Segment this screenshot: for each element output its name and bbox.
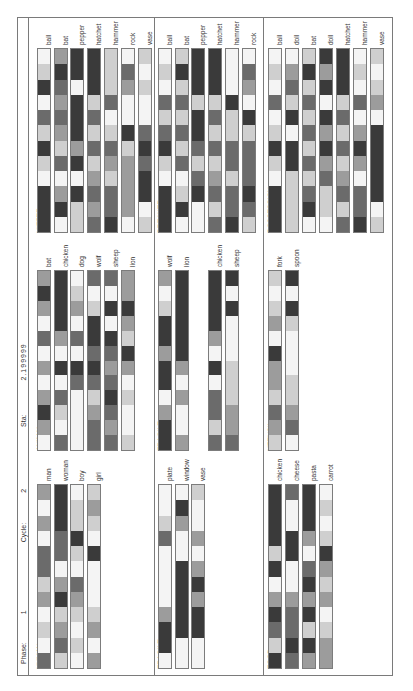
unit-strip-pepper: [191, 48, 205, 233]
activation-cell: [159, 561, 171, 576]
activation-cell: [269, 156, 281, 171]
activation-cell: [354, 141, 366, 156]
activation-cell: [337, 156, 349, 171]
activation-cell: [71, 110, 83, 125]
unit-strip-vase: [138, 48, 152, 233]
activation-cell: [286, 405, 298, 420]
activation-cell: [337, 125, 349, 140]
activation-cell: [226, 435, 238, 450]
activation-cell: [371, 110, 383, 125]
activation-cell: [371, 64, 383, 79]
unit-strip-bat: [54, 48, 68, 233]
activation-cell: [286, 375, 298, 390]
unit-strip-hatchet: [208, 48, 222, 233]
unit-strip-bat: [37, 270, 51, 451]
activation-cell: [105, 331, 117, 346]
activation-cell: [192, 49, 204, 64]
activation-cell: [209, 420, 221, 435]
activation-cell: [88, 202, 100, 217]
activation-cell: [38, 622, 50, 637]
activation-cell: [320, 95, 332, 110]
activation-cell: [38, 592, 50, 607]
phase-label: Phase:: [18, 642, 29, 664]
activation-cell: [105, 171, 117, 186]
activation-cell: [371, 217, 383, 232]
activation-cell: [269, 607, 281, 622]
activation-cell: [226, 171, 238, 186]
activation-cell: [269, 592, 281, 607]
activation-cell: [88, 592, 100, 607]
activation-cell: [55, 49, 67, 64]
activation-cell: [337, 171, 349, 186]
activation-cell: [303, 125, 315, 140]
activation-cell: [88, 420, 100, 435]
unit-label: chicken: [276, 459, 283, 481]
unit-label: hammer: [112, 21, 119, 45]
activation-cell: [243, 110, 255, 125]
activation-cell: [38, 171, 50, 186]
cycle-value: 2: [18, 488, 29, 492]
activation-cell: [122, 346, 134, 361]
activation-cell: [286, 141, 298, 156]
activation-cell: [226, 286, 238, 301]
activation-cell: [320, 577, 332, 592]
activation-cell: [55, 331, 67, 346]
unit-strip-chicken: [54, 270, 68, 451]
unit-label: spoon: [293, 249, 300, 267]
activation-cell: [209, 361, 221, 376]
activation-cell: [176, 375, 188, 390]
activation-cell: [192, 653, 204, 668]
activation-cell: [337, 202, 349, 217]
activation-cell: [105, 125, 117, 140]
column-divider: [263, 18, 264, 675]
activation-cell: [243, 156, 255, 171]
activation-cell: [320, 49, 332, 64]
activation-cell: [226, 271, 238, 286]
activation-cell: [320, 561, 332, 576]
activation-cell: [139, 217, 151, 232]
activation-cell: [159, 217, 171, 232]
activation-cell: [286, 331, 298, 346]
activation-cell: [159, 546, 171, 561]
activation-cell: [269, 561, 281, 576]
unit-strip-spoon: [285, 270, 299, 451]
activation-cell: [192, 156, 204, 171]
activation-cell: [55, 346, 67, 361]
activation-cell: [286, 577, 298, 592]
activation-cell: [192, 592, 204, 607]
unit-strip-bat: [302, 48, 316, 233]
network-activation-figure: Phase: 1 Cycle: 2 Sta: 2.199999 HITTERba…: [17, 17, 393, 676]
activation-cell: [320, 110, 332, 125]
activation-cell: [176, 622, 188, 637]
activation-cell: [337, 217, 349, 232]
activation-cell: [71, 485, 83, 500]
activation-cell: [71, 500, 83, 515]
unit-label: boy: [78, 471, 85, 481]
activation-cell: [371, 95, 383, 110]
activation-cell: [38, 485, 50, 500]
activation-cell: [303, 186, 315, 201]
activation-cell: [38, 80, 50, 95]
unit-label: pasta: [310, 465, 317, 481]
unit-label: woman: [62, 460, 69, 481]
unit-label: fork: [276, 256, 283, 267]
activation-cell: [320, 546, 332, 561]
activation-cell: [122, 375, 134, 390]
unit-label: wolf: [166, 255, 173, 267]
unit-label: bat: [62, 36, 69, 45]
activation-cell: [192, 202, 204, 217]
activation-cell: [122, 286, 134, 301]
activation-cell: [243, 202, 255, 217]
activation-cell: [269, 141, 281, 156]
activation-cell: [71, 420, 83, 435]
activation-cell: [371, 49, 383, 64]
unit-label: hatchet: [216, 24, 223, 45]
activation-cell: [38, 331, 50, 346]
activation-cell: [303, 653, 315, 668]
activation-cell: [71, 301, 83, 316]
activation-cell: [38, 125, 50, 140]
activation-cell: [286, 561, 298, 576]
activation-cell: [139, 80, 151, 95]
activation-cell: [269, 80, 281, 95]
activation-cell: [286, 110, 298, 125]
